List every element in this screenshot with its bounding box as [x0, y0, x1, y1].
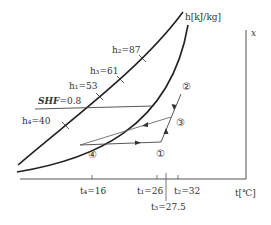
- shf-name: SHF: [38, 96, 60, 106]
- process-4-to-1: [80, 142, 161, 145]
- t4-label: t₄=16: [80, 186, 106, 196]
- shf-line: [35, 106, 154, 109]
- h3-label: h₃=61: [90, 66, 118, 76]
- h4-label: h₄=40: [22, 116, 51, 126]
- t3-label: t₃=27.5: [151, 202, 186, 212]
- enthalpy-axis-label: h[kJ/kg]: [185, 12, 221, 22]
- x-axis-label: t[℃]: [235, 188, 256, 198]
- state-4-label: ④: [88, 149, 97, 160]
- process-3-to-4: [80, 117, 171, 145]
- shf-label: SHF=0.8: [38, 96, 82, 106]
- h2-label: h₂=87: [112, 45, 141, 55]
- shf-value: =0.8: [59, 96, 81, 106]
- t1-label: t₁=26: [137, 186, 163, 196]
- arrow-3-to-4: [142, 122, 148, 127]
- state-2-label: ②: [182, 81, 191, 92]
- arrow-1-to-2: [164, 128, 169, 134]
- y-axis-label: x: [251, 28, 256, 38]
- arrow-4-to-1: [135, 141, 141, 146]
- state-1-label: ①: [156, 148, 165, 159]
- state-3-label: ③: [176, 117, 185, 128]
- psychrometric-diagram: h[kJ/kg] x t[℃] h₂=87 h₃=61 h₁=53 h₄=40 …: [0, 0, 271, 225]
- t2-label: t₂=32: [174, 186, 200, 196]
- h1-label: h₁=53: [69, 81, 98, 91]
